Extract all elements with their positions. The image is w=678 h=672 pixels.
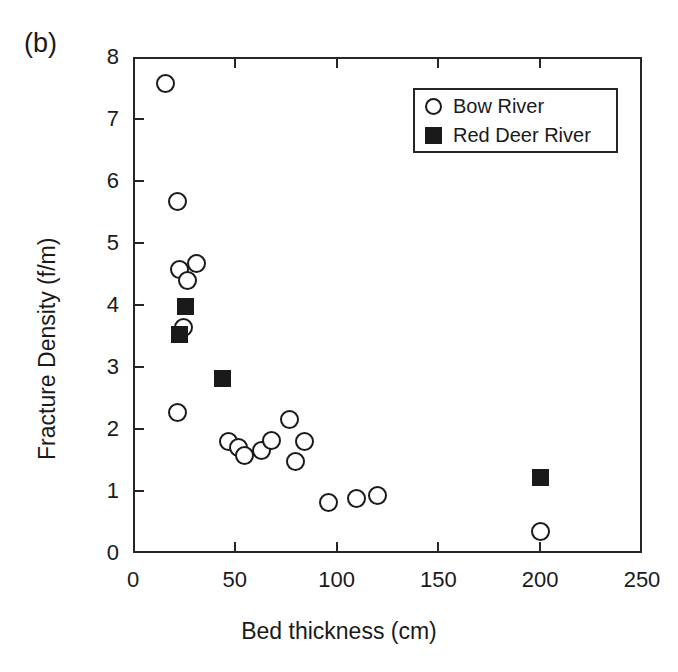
y-tick-label: 2 — [73, 416, 119, 442]
y-tick-mark — [133, 490, 144, 492]
y-tick-label: 8 — [73, 44, 119, 70]
legend-item: Bow River — [425, 93, 544, 119]
x-tick-mark-bottom — [336, 542, 338, 553]
data-point — [171, 326, 188, 343]
data-point — [177, 298, 194, 315]
y-axis-title: Fracture Density (f/m) — [34, 238, 61, 460]
legend-label: Bow River — [453, 95, 544, 118]
y-tick-label: 7 — [73, 106, 119, 132]
x-tick-label: 50 — [223, 567, 247, 593]
legend-box: Bow RiverRed Deer River — [413, 88, 618, 153]
figure-container: (b) 012345678 050100150200250 Bed thickn… — [0, 0, 678, 672]
data-point — [214, 370, 231, 387]
x-tick-mark-top — [539, 57, 541, 68]
data-point — [531, 522, 550, 541]
x-tick-mark-top — [234, 57, 236, 68]
data-point — [368, 486, 387, 505]
x-tick-mark-top — [336, 57, 338, 68]
data-point — [262, 431, 281, 450]
y-tick-mark — [133, 180, 144, 182]
x-tick-label: 100 — [318, 567, 355, 593]
legend-label: Red Deer River — [453, 124, 591, 147]
y-tick-mark — [133, 304, 144, 306]
panel-label: (b) — [24, 28, 57, 59]
x-tick-label: 250 — [624, 567, 661, 593]
y-tick-label: 1 — [73, 478, 119, 504]
filled-square-icon — [425, 127, 442, 144]
x-tick-mark-bottom — [539, 542, 541, 553]
x-tick-mark-bottom — [437, 542, 439, 553]
y-tick-label: 0 — [73, 540, 119, 566]
data-point — [295, 432, 314, 451]
y-tick-mark — [133, 366, 144, 368]
open-circle-icon — [425, 98, 442, 115]
y-tick-label: 3 — [73, 354, 119, 380]
x-tick-label: 200 — [522, 567, 559, 593]
y-tick-label: 5 — [73, 230, 119, 256]
data-point — [187, 254, 206, 273]
x-tick-mark-bottom — [234, 542, 236, 553]
data-point — [286, 452, 305, 471]
y-tick-label: 6 — [73, 168, 119, 194]
y-tick-mark — [133, 428, 144, 430]
data-point — [168, 403, 187, 422]
x-tick-label: 0 — [127, 567, 139, 593]
legend-item: Red Deer River — [425, 122, 591, 148]
x-tick-label: 150 — [420, 567, 457, 593]
data-point — [319, 493, 338, 512]
y-tick-mark — [133, 242, 144, 244]
data-point — [532, 469, 549, 486]
x-axis-title: Bed thickness (cm) — [0, 618, 678, 645]
x-tick-mark-top — [437, 57, 439, 68]
y-tick-label: 4 — [73, 292, 119, 318]
y-tick-mark — [133, 118, 144, 120]
